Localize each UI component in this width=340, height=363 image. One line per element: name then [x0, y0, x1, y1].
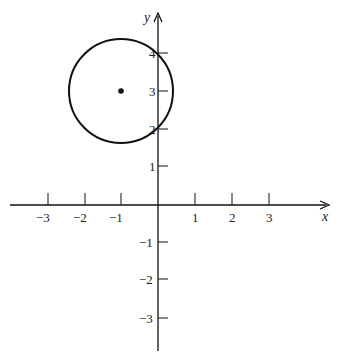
y-tick-label: −3 [139, 311, 153, 326]
x-tick-label: −1 [109, 210, 123, 225]
x-tick-label: 3 [266, 210, 273, 225]
circle-center-point [118, 88, 124, 94]
x-ticks: −3−2−1123 [36, 193, 273, 225]
y-tick-label: 1 [149, 159, 156, 174]
x-tick-label: 2 [229, 210, 236, 225]
y-tick-label: 3 [149, 84, 156, 99]
x-tick-label: −3 [36, 210, 50, 225]
x-axis-label: x [321, 209, 329, 224]
x-tick-label: 1 [192, 210, 199, 225]
y-tick-label: −2 [139, 272, 153, 287]
plot-svg: x y −3−2−1123 4321−1−2−3 [0, 0, 340, 363]
y-ticks: 4321−1−2−3 [139, 46, 168, 326]
y-tick-label: −1 [139, 235, 153, 250]
coordinate-plane-figure: x y −3−2−1123 4321−1−2−3 [0, 0, 340, 363]
y-axis-label: y [142, 10, 151, 25]
x-tick-label: −2 [73, 210, 87, 225]
